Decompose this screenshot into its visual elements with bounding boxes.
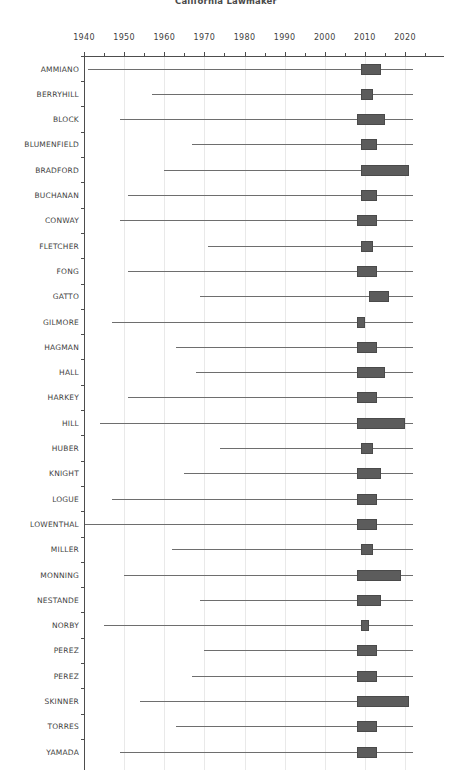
y-tick-label-ammiano-0: AMMIANO	[41, 64, 79, 73]
minor-tick-1965	[184, 53, 185, 56]
minor-tick-1955	[144, 53, 145, 56]
box-glyph	[361, 64, 381, 75]
y-tick-torres-26	[81, 714, 84, 715]
major-tick-1960	[164, 52, 165, 56]
y-tick-hagman-11	[81, 334, 84, 335]
whisker-line	[172, 549, 413, 550]
box-glyph	[361, 165, 409, 176]
y-tick-label-huber-15: HUBER	[52, 444, 79, 453]
major-tick-1980	[245, 52, 246, 56]
gridline-1950	[124, 56, 125, 770]
y-tick-fletcher-7	[81, 233, 84, 234]
y-tick-skinner-25	[81, 688, 84, 689]
y-tick-label-perez-24: PEREZ	[54, 671, 79, 680]
whisker-line	[204, 650, 413, 651]
y-tick-label-norby-22: NORBY	[52, 621, 79, 630]
y-tick-label-logue-17: LOGUE	[52, 494, 79, 503]
x-tick-label-1950: 1950	[113, 33, 135, 42]
box-glyph	[357, 342, 377, 353]
y-tick-lowenthal-18	[81, 511, 84, 512]
whisker-line	[192, 144, 413, 145]
x-tick-label-1960: 1960	[153, 33, 175, 42]
gridline-1980	[245, 56, 246, 770]
y-tick-perez-23	[81, 638, 84, 639]
chart-root: California Lawmaker 19401950196019701980…	[0, 0, 452, 773]
gridline-2010	[365, 56, 366, 770]
box-glyph	[361, 620, 369, 631]
gridline-2020	[405, 56, 406, 770]
y-tick-label-blumenfield-3: BLUMENFIELD	[24, 140, 79, 149]
minor-tick-2025	[425, 53, 426, 56]
box-glyph	[357, 215, 377, 226]
whisker-line	[152, 94, 413, 95]
x-tick-label-2010: 2010	[354, 33, 376, 42]
y-tick-label-conway-6: CONWAY	[45, 216, 79, 225]
box-glyph	[357, 696, 409, 707]
whisker-line	[176, 347, 413, 348]
y-tick-monning-20	[81, 562, 84, 563]
box-glyph	[357, 519, 377, 530]
y-tick-blumenfield-3	[81, 132, 84, 133]
y-tick-logue-17	[81, 486, 84, 487]
box-glyph	[357, 418, 405, 429]
minor-tick-1945	[104, 53, 105, 56]
box-glyph	[357, 367, 385, 378]
y-tick-norby-22	[81, 612, 84, 613]
y-tick-label-gilmore-10: GILMORE	[43, 317, 79, 326]
minor-tick-1975	[224, 53, 225, 56]
x-tick-label-1980: 1980	[234, 33, 256, 42]
y-tick-label-hall-12: HALL	[59, 368, 79, 377]
y-tick-yamada-27	[81, 739, 84, 740]
y-tick-huber-15	[81, 435, 84, 436]
y-tick-block-2	[81, 106, 84, 107]
y-tick-label-harkey-13: HARKEY	[48, 393, 79, 402]
gridline-1970	[204, 56, 205, 770]
y-tick-label-yamada-27: YAMADA	[46, 747, 79, 756]
box-glyph	[357, 721, 377, 732]
major-tick-1950	[124, 52, 125, 56]
y-tick-conway-6	[81, 208, 84, 209]
y-tick-berryhill-1	[81, 81, 84, 82]
y-tick-label-hill-14: HILL	[62, 418, 79, 427]
box-glyph	[369, 291, 389, 302]
x-tick-label-1970: 1970	[194, 33, 216, 42]
y-tick-label-knight-16: KNIGHT	[49, 469, 79, 478]
box-glyph	[357, 317, 365, 328]
whisker-line	[112, 322, 413, 323]
whisker-line	[200, 600, 413, 601]
y-tick-label-monning-20: MONNING	[40, 570, 79, 579]
box-glyph	[357, 392, 377, 403]
y-tick-label-fletcher-7: FLETCHER	[39, 241, 79, 250]
box-glyph	[361, 89, 373, 100]
y-tick-perez-24	[81, 663, 84, 664]
minor-tick-1995	[305, 53, 306, 56]
minor-tick-2005	[345, 53, 346, 56]
major-tick-1970	[204, 52, 205, 56]
y-tick-label-skinner-25: SKINNER	[45, 697, 79, 706]
whisker-line	[220, 448, 413, 449]
box-glyph	[357, 671, 377, 682]
gridline-2000	[325, 56, 326, 770]
y-tick-label-lowenthal-18: LOWENTHAL	[30, 519, 79, 528]
box-glyph	[357, 570, 401, 581]
minor-tick-2015	[385, 53, 386, 56]
y-tick-knight-16	[81, 461, 84, 462]
y-tick-ammiano-0	[81, 56, 84, 57]
major-tick-1990	[285, 52, 286, 56]
y-tick-label-buchanan-5: BUCHANAN	[34, 191, 79, 200]
y-tick-nestande-21	[81, 587, 84, 588]
gridline-1960	[164, 56, 165, 770]
y-tick-harkey-13	[81, 385, 84, 386]
left-axis-spine	[84, 56, 85, 770]
x-tick-label-2020: 2020	[394, 33, 416, 42]
y-tick-label-perez-23: PEREZ	[54, 646, 79, 655]
x-tick-label-1940: 1940	[73, 33, 95, 42]
y-tick-gatto-9	[81, 284, 84, 285]
box-glyph	[361, 139, 377, 150]
box-glyph	[357, 266, 377, 277]
y-tick-label-nestande-21: NESTANDE	[37, 595, 79, 604]
x-tick-label-1990: 1990	[274, 33, 296, 42]
box-glyph	[357, 595, 381, 606]
y-tick-label-fong-8: FONG	[57, 266, 79, 275]
y-tick-bradford-4	[81, 157, 84, 158]
